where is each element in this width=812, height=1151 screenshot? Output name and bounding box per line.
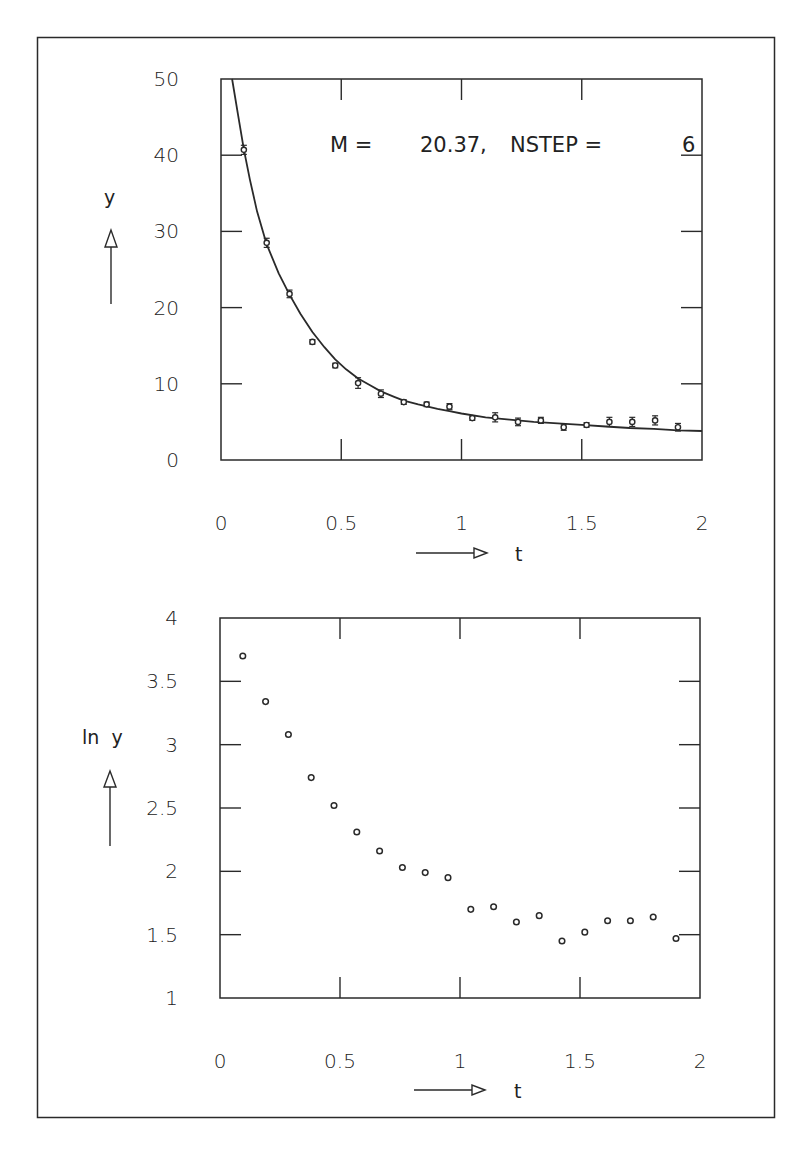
y-tick-label: 50 [154, 67, 179, 91]
ln-y-axis-arrow-icon [104, 771, 116, 846]
data-point [309, 339, 315, 344]
outer-frame [38, 38, 775, 1118]
x-tick-label: 2 [694, 1049, 707, 1073]
y-tick-label: 3.5 [146, 669, 178, 693]
x-tick-label: 0 [214, 1049, 227, 1073]
x-axis-label: t [515, 543, 522, 565]
y-tick-label: 40 [154, 143, 179, 167]
y-tick-label: 1 [165, 986, 178, 1010]
x-tick-label: 0.5 [325, 511, 357, 535]
data-point [377, 848, 383, 854]
data-point [673, 936, 679, 942]
data-point [469, 415, 475, 420]
data-point [446, 404, 452, 410]
data-points-ln-y [240, 653, 679, 944]
data-point [650, 914, 656, 920]
y-tick-label: 1.5 [146, 923, 178, 947]
fit-annotation-m-label: M = [330, 133, 372, 157]
data-point [538, 417, 544, 423]
data-point [445, 875, 451, 881]
figure: 00.511.5201020304050 M = 20.37, NSTEP = … [0, 0, 812, 1151]
y-tick-label: 20 [154, 296, 179, 320]
data-point [286, 732, 292, 738]
data-point [468, 907, 474, 913]
plot-bottom-tick-labels: 00.511.5211.522.533.54 [146, 606, 706, 1073]
y-tick-label: 2 [165, 859, 178, 883]
x-axis-arrow-icon-bottom [414, 1085, 485, 1095]
x-axis-label-bottom: t [514, 1080, 521, 1102]
plot-bottom-ln-y-vs-t: 00.511.5211.522.533.54 ln y t [82, 606, 706, 1102]
plot-top-y-vs-t: 00.511.5201020304050 M = 20.37, NSTEP = … [104, 67, 708, 565]
fit-annotation-nstep-label: NSTEP = [510, 133, 602, 157]
ln-y-axis-label: ln y [82, 726, 123, 748]
y-tick-label: 3 [165, 733, 178, 757]
data-point [514, 919, 520, 925]
data-point [515, 418, 521, 426]
data-point [605, 918, 611, 924]
x-tick-label: 0.5 [324, 1049, 356, 1073]
x-tick-label: 1 [455, 511, 468, 535]
data-point [491, 904, 497, 910]
plot-bottom-frame [220, 618, 700, 998]
data-point [400, 865, 406, 871]
fit-annotation-m-value: 20.37, [420, 133, 487, 157]
fit-annotation-nstep-value: 6 [682, 133, 695, 157]
data-point [584, 422, 590, 427]
plot-bottom-ticks [220, 618, 700, 998]
x-tick-label: 2 [696, 511, 709, 535]
data-point [561, 424, 567, 430]
data-point [606, 417, 612, 426]
data-point [424, 402, 430, 407]
data-point [629, 417, 635, 426]
data-point [240, 653, 246, 659]
data-point [354, 829, 360, 835]
fit-line [232, 79, 702, 431]
y-axis-arrow-icon [105, 230, 117, 304]
data-point [331, 803, 337, 809]
data-point [401, 399, 407, 404]
data-point [536, 913, 542, 919]
y-axis-label: y [104, 186, 115, 208]
data-point [628, 918, 634, 924]
x-axis-arrow-icon [416, 548, 487, 558]
fit-curve [232, 79, 702, 431]
data-point [332, 363, 338, 368]
data-point [559, 938, 565, 944]
data-point [241, 145, 247, 154]
data-points-with-errorbars [241, 145, 681, 431]
x-tick-label: 1.5 [564, 1049, 596, 1073]
y-tick-label: 0 [166, 448, 179, 472]
data-point [492, 413, 498, 422]
x-tick-label: 0 [215, 511, 228, 535]
data-point [582, 929, 588, 935]
data-point [308, 775, 314, 781]
y-tick-label: 4 [165, 606, 178, 630]
x-tick-label: 1.5 [566, 511, 598, 535]
data-point [652, 416, 658, 425]
y-tick-label: 10 [154, 372, 179, 396]
data-point [422, 870, 428, 876]
x-tick-label: 1 [454, 1049, 467, 1073]
y-tick-label: 2.5 [146, 796, 178, 820]
y-tick-label: 30 [154, 219, 179, 243]
data-point [263, 699, 269, 705]
